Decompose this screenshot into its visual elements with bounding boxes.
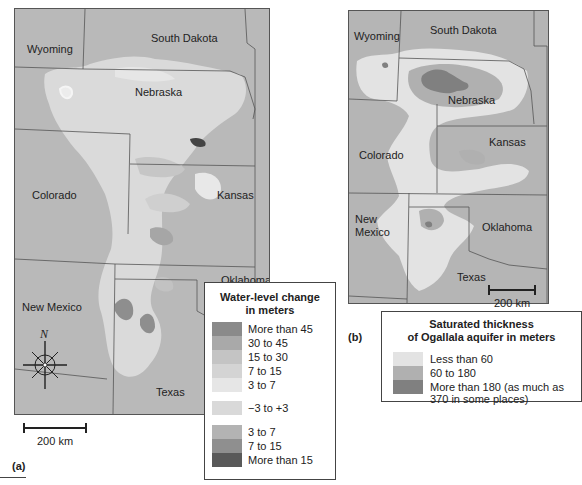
legend-item-60-to-180: 60 to 180 xyxy=(382,366,581,380)
legend-item-rise-7-15: 7 to 15 xyxy=(205,439,335,453)
state-label-kansas: Kansas xyxy=(217,189,254,202)
legend-title-line1: Water-level change xyxy=(205,291,335,304)
legend-water-level-change: Water-level change in meters More than 4… xyxy=(204,282,336,480)
state-label-colorado: Colorado xyxy=(359,149,404,162)
legend-item-rise-3-7: 3 to 7 xyxy=(205,425,335,439)
state-label-new-mexico-line2: Mexico xyxy=(355,226,390,239)
state-label-nebraska: Nebraska xyxy=(448,94,495,107)
legend-title-line2: of Ogallala aquifer in meters xyxy=(382,331,581,344)
legend-item-decline-15-30: 15 to 30 xyxy=(205,350,335,364)
state-label-oklahoma: Oklahoma xyxy=(482,221,532,234)
scale-bar-b: 200 km xyxy=(488,285,536,311)
state-label-south-dakota: South Dakota xyxy=(430,24,497,37)
legend-item-less-than-60: Less than 60 xyxy=(382,352,581,366)
legend-item-rise-more-than-15: More than 15 xyxy=(205,453,335,467)
panel-tag-a: (a) xyxy=(12,460,25,472)
state-label-colorado: Colorado xyxy=(32,189,77,202)
legend-title-line2: in meters xyxy=(205,304,335,317)
state-label-nebraska: Nebraska xyxy=(135,86,182,99)
legend-item-decline-30-45: 30 to 45 xyxy=(205,336,335,350)
scale-label-b: 200 km xyxy=(494,297,530,309)
state-label-south-dakota: South Dakota xyxy=(151,32,218,45)
legend-item-more-than-180: More than 180 (as much as 370 in some pl… xyxy=(382,380,581,408)
scale-label-a: 200 km xyxy=(37,435,73,447)
legend-item-decline-more-than-45: More than 45 xyxy=(205,322,335,336)
legend-saturated-thickness: Saturated thickness of Ogallala aquifer … xyxy=(381,311,582,402)
legend-item-decline-3-7: 3 to 7 xyxy=(205,378,335,392)
legend-item-no-change: −3 to +3 xyxy=(205,401,335,415)
compass-rose-icon: N xyxy=(20,327,70,391)
scale-bar-a: 200 km xyxy=(23,423,88,451)
state-label-texas: Texas xyxy=(156,386,185,399)
caption-rule xyxy=(0,477,26,478)
panel-tag-b: (b) xyxy=(348,331,362,343)
map-panel-b: Wyoming South Dakota Nebraska Colorado K… xyxy=(348,10,549,304)
state-label-wyoming: Wyoming xyxy=(27,43,73,56)
state-label-new-mexico-line1: New xyxy=(355,213,377,226)
state-label-texas: Texas xyxy=(457,271,486,284)
legend-item-decline-7-15: 7 to 15 xyxy=(205,364,335,378)
state-label-wyoming: Wyoming xyxy=(354,30,400,43)
legend-title-line1: Saturated thickness xyxy=(382,318,581,331)
state-label-kansas: Kansas xyxy=(489,136,526,149)
state-label-new-mexico: New Mexico xyxy=(22,301,82,314)
